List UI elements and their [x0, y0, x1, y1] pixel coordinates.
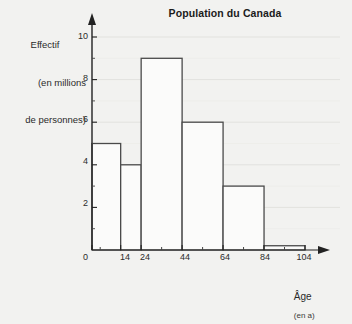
histogram-bar: [223, 186, 264, 250]
bars-group: [92, 58, 305, 250]
y-axis-arrow-icon: [88, 13, 96, 25]
x-axis-arrow-icon: [318, 246, 330, 254]
histogram-bar: [121, 165, 141, 250]
histogram-bar: [92, 144, 121, 251]
x-axis-label-unit: (en a): [294, 311, 315, 320]
histogram-bar: [182, 122, 223, 250]
histogram-bar: [141, 58, 182, 250]
